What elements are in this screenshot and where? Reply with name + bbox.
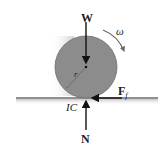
ground-shading [16, 99, 158, 105]
angular-velocity-label: ω [116, 26, 124, 37]
weight-label: W [81, 12, 93, 24]
friction-label: Ff [118, 85, 128, 100]
friction-label-subscript: f [125, 91, 127, 100]
normal-label: N [81, 133, 90, 145]
center-point [85, 66, 88, 69]
radius-label: r [74, 70, 78, 79]
instant-center-label: IC [66, 102, 77, 113]
